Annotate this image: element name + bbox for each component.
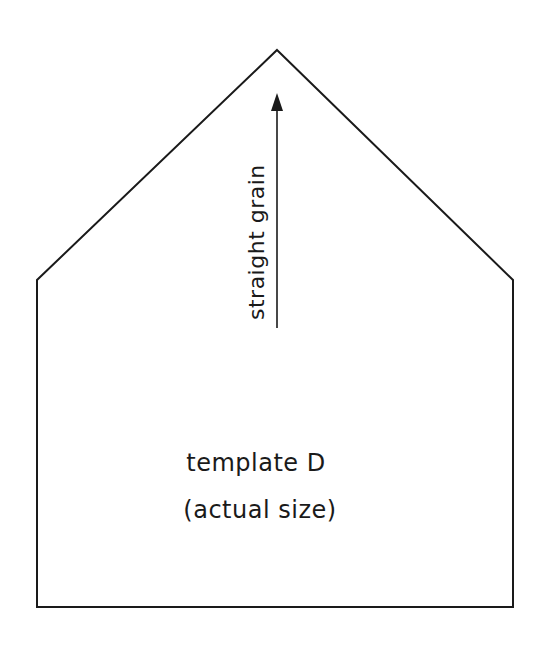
- template-title: template D: [186, 449, 325, 477]
- grain-label: straight grain: [244, 164, 269, 320]
- grain-arrow: [271, 93, 283, 328]
- template-subtitle: (actual size): [183, 496, 336, 524]
- arrow-up-icon: [271, 93, 283, 111]
- template-diagram: straight grain template D (actual size): [0, 0, 547, 648]
